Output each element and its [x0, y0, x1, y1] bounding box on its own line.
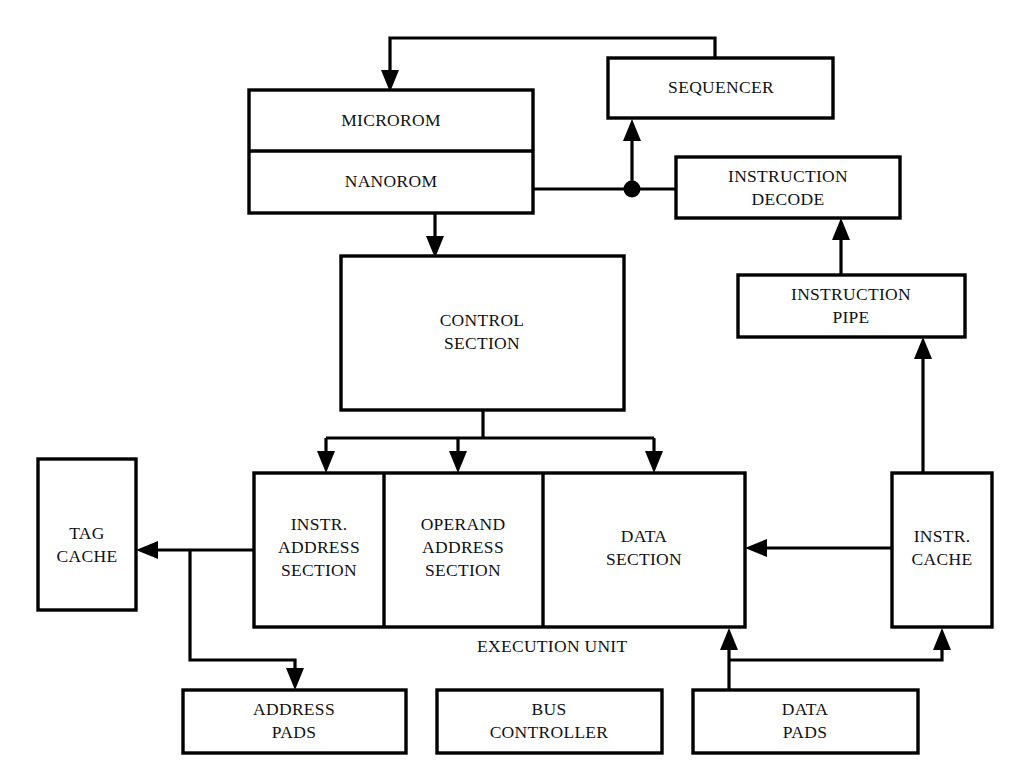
block-label-operand-address-section-line3: SECTION: [425, 560, 501, 580]
block-label-instr-address-section-line1: INSTR.: [291, 514, 348, 534]
label-execution-unit: EXECUTION UNIT: [477, 636, 628, 656]
cpu-block-diagram: MICROROM NANOROM SEQUENCER INSTRUCTION D…: [0, 0, 1027, 783]
block-label-bus-controller-line1: BUS: [532, 699, 567, 719]
block-label-tag-cache-line1: TAG: [69, 523, 105, 543]
block-label-data-section-line2: SECTION: [606, 549, 682, 569]
block-label-instr-cache-line1: INSTR.: [914, 526, 971, 546]
block-label-operand-address-section-line2: ADDRESS: [422, 537, 504, 557]
wire-data-pads-to-instr-cache: [729, 646, 942, 660]
arrowhead-into-operand-address-section: [449, 451, 467, 473]
block-label-instr-cache-line2: CACHE: [912, 549, 973, 569]
block-label-data-section-line1: DATA: [621, 526, 668, 546]
block-label-instr-address-section-line3: SECTION: [281, 560, 357, 580]
arrowhead-into-sequencer: [623, 119, 641, 141]
block-label-tag-cache-line2: CACHE: [57, 546, 118, 566]
arrowhead-into-data-section-bottom: [720, 628, 738, 650]
block-label-operand-address-section-line1: OPERAND: [421, 514, 506, 534]
block-label-address-pads-line1: ADDRESS: [253, 699, 335, 719]
block-label-instruction-pipe-line2: PIPE: [832, 307, 869, 327]
arrowhead-into-instr-cache-bottom: [933, 628, 951, 650]
junction-dot-nanorom-bus: [624, 181, 641, 198]
arrowhead-into-instr-address-section: [317, 451, 335, 473]
block-label-data-pads-line1: DATA: [782, 699, 829, 719]
arrowhead-into-instruction-pipe: [914, 337, 932, 359]
block-label-control-section-line1: CONTROL: [440, 310, 525, 330]
arrowhead-into-address-pads: [286, 668, 304, 690]
block-label-address-pads-line2: PADS: [272, 722, 316, 742]
block-label-instruction-decode-line1: INSTRUCTION: [728, 166, 848, 186]
block-label-control-section-line2: SECTION: [444, 333, 520, 353]
block-label-instruction-pipe-line1: INSTRUCTION: [791, 284, 911, 304]
arrowhead-into-data-section: [645, 451, 663, 473]
block-label-instr-address-section-line2: ADDRESS: [278, 537, 360, 557]
block-label-instruction-decode-line2: DECODE: [752, 189, 825, 209]
block-label-bus-controller-line2: CONTROLLER: [490, 722, 609, 742]
block-label-nanorom: NANOROM: [345, 171, 438, 191]
block-label-sequencer: SEQUENCER: [668, 77, 774, 97]
block-label-microrom: MICROROM: [341, 110, 441, 130]
arrowhead-into-tag-cache: [136, 541, 158, 559]
block-label-data-pads-line2: PADS: [783, 722, 827, 742]
arrowhead-into-instruction-decode: [832, 218, 850, 240]
diagram-canvas: MICROROM NANOROM SEQUENCER INSTRUCTION D…: [0, 0, 1027, 783]
arrowhead-into-data-section-right: [745, 539, 767, 557]
